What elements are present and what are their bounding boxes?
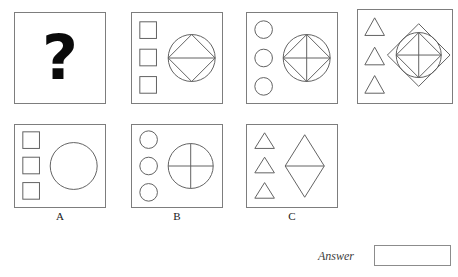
answer-input[interactable]	[375, 247, 450, 266]
option-b-label: B	[131, 210, 223, 222]
circle-icon	[140, 157, 158, 175]
question-mark-glyph: ?	[15, 13, 105, 103]
square-icon	[140, 77, 157, 94]
matrix-cell-4	[357, 9, 453, 104]
matrix-cell-3	[246, 12, 338, 104]
option-b-panel[interactable]	[131, 124, 223, 208]
option-c-panel[interactable]	[246, 124, 338, 208]
question-cell: ?	[14, 12, 106, 104]
triangle-icon	[255, 157, 275, 173]
square-icon	[140, 49, 157, 66]
square-icon	[23, 183, 40, 200]
option-a-panel[interactable]	[14, 124, 106, 208]
circle-icon	[140, 131, 158, 149]
circle-icon	[255, 21, 273, 39]
answer-input-box[interactable]	[374, 245, 451, 266]
matrix-cell-2	[131, 12, 223, 104]
circle-icon	[50, 143, 97, 190]
puzzle-stage: ?	[0, 0, 458, 277]
circle-icon	[255, 49, 273, 67]
square-icon	[140, 22, 157, 39]
answer-label: Answer	[318, 249, 354, 264]
triangle-icon	[255, 133, 275, 149]
circle-icon	[255, 78, 273, 96]
triangle-icon	[365, 18, 385, 36]
circle-icon	[140, 184, 158, 202]
triangle-icon	[255, 183, 275, 199]
option-a-label: A	[14, 210, 106, 222]
triangle-icon	[365, 47, 385, 65]
option-c-label: C	[246, 210, 338, 222]
square-icon	[23, 132, 40, 149]
triangle-icon	[365, 76, 385, 94]
square-icon	[23, 157, 40, 174]
